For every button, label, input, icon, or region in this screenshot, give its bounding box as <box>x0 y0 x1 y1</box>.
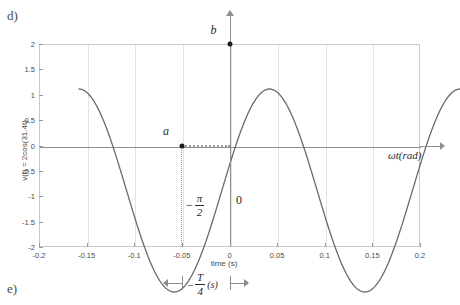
x-axis-title: time (s) <box>0 259 448 268</box>
y-tick-mark <box>39 247 43 248</box>
x-tick-mark <box>87 243 88 247</box>
marker-point-a <box>179 143 184 148</box>
origin-label: 0 <box>236 193 242 208</box>
arrow-line-left <box>165 283 182 284</box>
phase-fraction: π 2 <box>195 193 205 218</box>
y-axis-arrow-icon <box>226 10 234 16</box>
phase-sign: − <box>186 198 193 213</box>
interval-tick-left <box>182 276 183 290</box>
part-label-d: d) <box>7 8 18 24</box>
x-tick-mark <box>39 243 40 247</box>
dotted-vertical-guide <box>181 146 182 248</box>
omega-axis-label: ωt(rad) <box>388 149 421 161</box>
y-tick-mark <box>39 196 43 197</box>
y-tick-mark <box>39 44 43 45</box>
x-tick-mark <box>182 243 183 247</box>
y-tick-mark <box>39 146 43 147</box>
y-axis-line <box>230 16 231 247</box>
phase-annotation: − π 2 <box>186 193 204 218</box>
y-tick-label: 2 <box>5 40 35 49</box>
arrow-right-icon <box>244 279 249 287</box>
x-tick-mark <box>420 243 421 247</box>
y-tick-mark <box>39 95 43 96</box>
point-label-b: b <box>211 23 217 38</box>
x-axis-extension <box>420 146 442 147</box>
y-tick-mark <box>39 120 43 121</box>
marker-point-b <box>227 42 232 47</box>
point-label-a: a <box>163 124 169 139</box>
x-axis-arrow-icon <box>440 142 445 150</box>
interval-unit: (s) <box>207 279 218 290</box>
interval-fraction: T 4 <box>195 272 205 297</box>
interval-denominator: 4 <box>195 286 205 297</box>
phase-denominator: 2 <box>195 207 205 218</box>
interval-numerator: T <box>195 272 205 283</box>
part-label-e: e) <box>7 281 17 297</box>
x-tick-mark <box>325 243 326 247</box>
phase-numerator: π <box>195 193 205 204</box>
y-tick-mark <box>39 69 43 70</box>
quarter-period-label: − T 4 (s) <box>187 272 218 297</box>
x-tick-mark <box>230 243 231 247</box>
quarter-period-annotation: − T 4 (s) <box>161 274 281 302</box>
x-tick-mark <box>372 243 373 247</box>
dotted-horizontal-guide <box>182 145 230 147</box>
y-axis-title: v(t) = 2cos(31.4t) <box>20 71 29 231</box>
y-tick-mark <box>39 222 43 223</box>
x-tick-mark <box>277 243 278 247</box>
y-tick-mark <box>39 171 43 172</box>
interval-sign: − <box>187 279 193 291</box>
x-tick-mark <box>134 243 135 247</box>
